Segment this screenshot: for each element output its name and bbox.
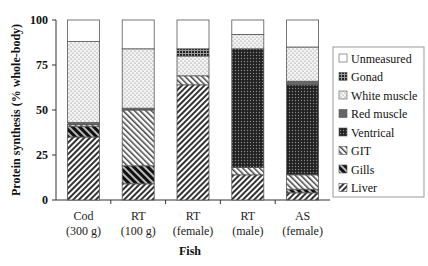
legend-swatch-gills — [339, 165, 347, 173]
bar-segment-git — [122, 110, 154, 166]
x-tick-label: (100 g) — [121, 224, 156, 238]
y-tick-label: 100 — [30, 13, 48, 27]
bar-segment-white-muscle — [177, 56, 209, 76]
legend: UnmeasuredGonadWhite muscleRed muscleVen… — [333, 47, 424, 197]
bar-segment-git — [232, 168, 264, 175]
x-tick-label: AS — [295, 209, 310, 223]
bar-segment-gills — [287, 189, 319, 193]
x-tick-label: RT — [186, 209, 201, 223]
bar-segment-gills — [122, 166, 154, 184]
y-axis: 0255075100 — [30, 13, 56, 207]
x-tick-label: (male) — [232, 224, 263, 238]
legend-swatch-ventrical — [339, 128, 347, 136]
legend-swatch-red-muscle — [339, 110, 347, 118]
legend-label: Red muscle — [351, 107, 407, 121]
legend-label: Ventrical — [351, 126, 395, 140]
legend-swatch-liver — [339, 184, 347, 192]
bar-segment-gonad — [177, 49, 209, 56]
bar-segment-white-muscle — [287, 47, 319, 81]
legend-swatch-unmeasured — [339, 54, 347, 62]
x-axis-title: Fish — [179, 244, 201, 258]
x-tick-label: (female) — [173, 224, 214, 238]
bar-segment-gills — [67, 126, 99, 137]
bar-segment-white-muscle — [122, 49, 154, 108]
legend-swatch-git — [339, 147, 347, 155]
bar-segment-git — [177, 76, 209, 85]
bar-segment-white-muscle — [232, 34, 264, 48]
x-tick-label: RT — [240, 209, 255, 223]
x-tick-label: RT — [131, 209, 146, 223]
bar-segment-unmeasured — [177, 20, 209, 49]
bar-segment-liver — [122, 184, 154, 200]
bar-segment-unmeasured — [67, 20, 99, 42]
y-axis-title: Protein synthesis (% whole-body) — [9, 24, 23, 196]
bars — [67, 20, 318, 200]
y-tick-label: 75 — [36, 58, 48, 72]
legend-swatch-white-muscle — [339, 91, 347, 99]
legend-label: Gills — [351, 163, 375, 177]
bar-segment-liver — [287, 193, 319, 200]
y-tick-label: 0 — [42, 193, 48, 207]
x-tick-label: Cod — [73, 209, 93, 223]
bar-segment-unmeasured — [287, 20, 319, 47]
bar-segment-unmeasured — [122, 20, 154, 49]
legend-swatch-gonad — [339, 73, 347, 81]
bar-segment-ventrical — [287, 85, 319, 175]
legend-label: Gonad — [351, 70, 383, 84]
bar-segment-red-muscle — [287, 81, 319, 85]
legend-label: GIT — [351, 144, 372, 158]
bar-segment-liver — [232, 175, 264, 200]
x-tick-label: (female) — [282, 224, 323, 238]
bar-segment-white-muscle — [67, 42, 99, 123]
bar-segment-liver — [177, 85, 209, 200]
bar-segment-ventrical — [232, 49, 264, 168]
x-tick-label: (300 g) — [66, 224, 101, 238]
y-tick-label: 25 — [36, 148, 48, 162]
x-axis: Cod(300 g)RT(100 g)RT(female)RT(male)AS(… — [56, 200, 330, 238]
stacked-bar-chart: Protein synthesis (% whole-body) Fish 02… — [0, 0, 428, 266]
bar-segment-liver — [67, 137, 99, 200]
legend-label: Liver — [351, 181, 377, 195]
bar-segment-git — [287, 175, 319, 189]
bar-segment-unmeasured — [232, 20, 264, 34]
legend-label: Unmeasured — [351, 52, 412, 66]
y-tick-label: 50 — [36, 103, 48, 117]
legend-label: White muscle — [351, 89, 417, 103]
